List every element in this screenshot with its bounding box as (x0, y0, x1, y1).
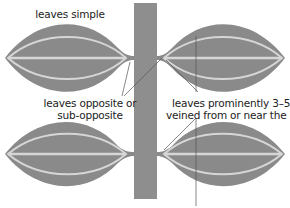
leaf-top-right (157, 24, 285, 92)
leaf-top-left (5, 24, 134, 92)
label-opposite-line2: sub-opposite (40, 109, 140, 121)
leaf-bottom-right (157, 122, 285, 186)
label-leaves-simple: leaves simple (30, 8, 110, 20)
label-veined-line2: veined from or near the base (166, 109, 290, 121)
label-opposite-line1: leaves opposite or (40, 97, 140, 109)
label-veined-line1: leaves prominently 3–5- (172, 97, 290, 109)
leaf-bottom-left (5, 122, 134, 186)
